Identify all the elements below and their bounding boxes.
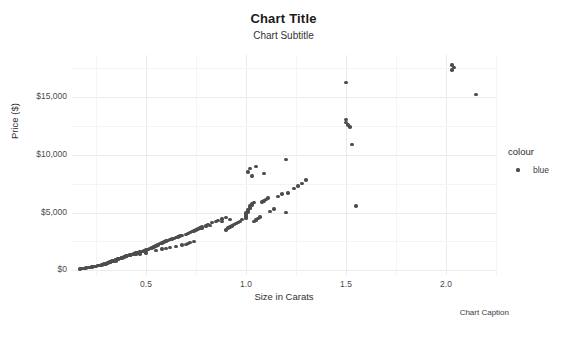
data-point <box>292 187 295 190</box>
data-point <box>286 191 289 194</box>
data-point <box>266 196 269 199</box>
chart-subtitle: Chart Subtitle <box>0 30 567 41</box>
data-point <box>220 220 223 223</box>
data-point <box>188 241 191 244</box>
x-axis-tick-label: 0.5 <box>126 279 166 289</box>
scatter-points <box>72 55 496 275</box>
data-point <box>474 93 477 96</box>
data-point <box>304 178 307 181</box>
data-point <box>284 211 287 214</box>
data-point <box>248 167 251 170</box>
data-point <box>164 247 167 250</box>
data-point <box>350 143 353 146</box>
data-point <box>114 259 117 262</box>
data-point <box>276 195 279 198</box>
data-point <box>180 234 183 237</box>
data-point <box>228 218 231 221</box>
data-point <box>344 81 347 84</box>
data-point <box>144 251 147 254</box>
plot-panel <box>72 55 496 275</box>
data-point <box>180 243 183 246</box>
data-point <box>246 170 249 173</box>
data-point <box>160 247 163 250</box>
legend: colour blue <box>508 146 549 176</box>
data-point <box>204 225 207 228</box>
chart-title: Chart Title <box>0 11 567 26</box>
data-point <box>174 245 177 248</box>
legend-dot-icon <box>516 168 519 171</box>
x-axis-tick-label: 1.0 <box>226 279 266 289</box>
data-point <box>240 218 243 221</box>
legend-items: blue <box>508 164 549 176</box>
data-point <box>224 216 227 219</box>
y-axis-tick-label: $0 <box>58 264 67 274</box>
x-axis-tick-label: 2.0 <box>426 279 466 289</box>
data-point <box>284 158 287 161</box>
data-point <box>154 249 157 252</box>
legend-key-icon <box>512 164 524 176</box>
legend-item[interactable]: blue <box>508 164 549 176</box>
data-point <box>124 255 127 258</box>
legend-item-label: blue <box>533 165 549 175</box>
data-point <box>128 254 131 257</box>
chart-root: Chart Title Chart Subtitle $0$5,000$10,0… <box>0 0 567 339</box>
data-point <box>216 219 219 222</box>
data-point <box>110 260 113 263</box>
data-point <box>452 66 455 69</box>
data-point <box>348 125 351 128</box>
data-point <box>272 207 275 210</box>
y-axis-tick-label: $10,000 <box>36 149 67 159</box>
y-axis-tick-label: $15,000 <box>36 91 67 101</box>
chart-caption: Chart Caption <box>460 308 509 317</box>
y-axis-title: Price ($) <box>9 103 20 139</box>
data-point <box>192 240 195 243</box>
data-point <box>252 201 255 204</box>
data-point <box>280 192 283 195</box>
data-point <box>254 165 257 168</box>
data-point <box>258 215 261 218</box>
data-point <box>250 174 253 177</box>
legend-title: colour <box>508 146 549 157</box>
data-point <box>296 184 299 187</box>
data-point <box>268 210 271 213</box>
y-axis-tick-label: $5,000 <box>41 207 67 217</box>
data-point <box>262 172 265 175</box>
data-point <box>300 182 303 185</box>
data-point <box>208 224 211 227</box>
data-point <box>138 252 141 255</box>
data-point <box>168 246 171 249</box>
x-axis-tick-label: 1.5 <box>326 279 366 289</box>
x-axis-title: Size in Carats <box>72 291 496 302</box>
gridline <box>496 55 497 275</box>
data-point <box>134 253 137 256</box>
data-point <box>120 256 123 259</box>
data-point <box>200 227 203 230</box>
data-point <box>354 204 357 207</box>
